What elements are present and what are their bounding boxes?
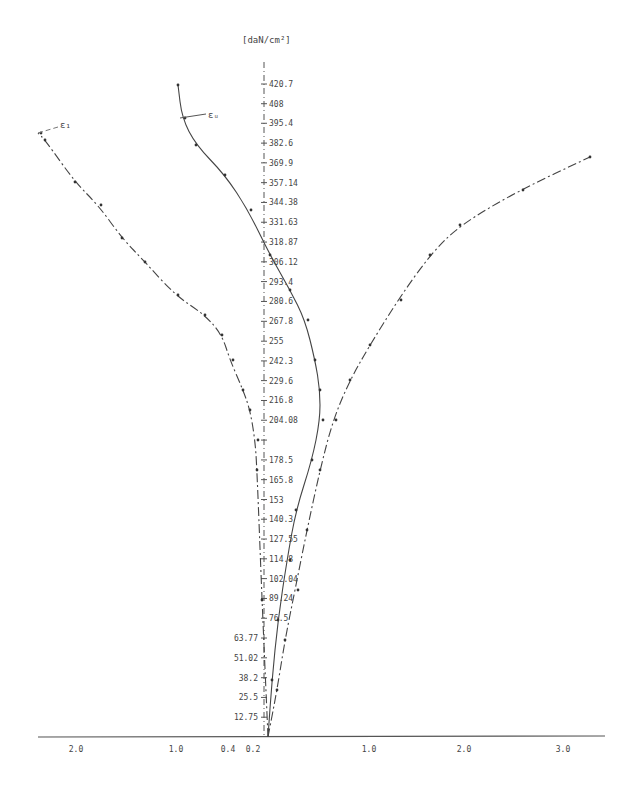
data-point xyxy=(522,189,525,192)
y-tick-label: 178.5 xyxy=(269,456,293,465)
y-axis-unit-label: [daN/cm²] xyxy=(242,35,291,45)
data-point xyxy=(322,419,325,422)
y-tick-label: 204.08 xyxy=(269,416,298,425)
y-tick-label: 255 xyxy=(269,337,284,346)
data-point xyxy=(44,139,47,142)
chart: [daN/cm²] 12.7525.538.251.0263.7776.589.… xyxy=(0,0,632,797)
x-tick-label: 3.0 xyxy=(556,745,571,754)
data-point xyxy=(224,174,227,177)
y-tick-label: 229.6 xyxy=(269,377,293,386)
x-tick-label: 2.0 xyxy=(69,745,84,754)
y-tick-label: 25.5 xyxy=(239,693,258,702)
y-tick-label: 382.6 xyxy=(269,139,293,148)
y-tick-label: 280.6 xyxy=(269,297,293,306)
series-line xyxy=(38,133,268,737)
data-point xyxy=(277,619,280,622)
x-ticks: 2.01.00.40.21.02.03.0 xyxy=(69,745,571,754)
data-point xyxy=(311,459,314,462)
data-point xyxy=(400,299,403,302)
data-point xyxy=(271,679,274,682)
data-point xyxy=(276,689,279,692)
data-point xyxy=(297,589,300,592)
y-tick-label: 38.2 xyxy=(239,674,258,683)
data-point xyxy=(257,439,260,442)
data-point xyxy=(100,204,103,207)
data-point xyxy=(269,254,272,257)
curve-mid-label: εᵤ xyxy=(208,110,219,120)
data-point xyxy=(369,344,372,347)
data-point xyxy=(232,359,235,362)
data-point xyxy=(221,334,224,337)
curve-left-label-leader xyxy=(38,127,58,133)
data-point xyxy=(459,224,462,227)
curve-left-label: ε₁ xyxy=(60,120,71,130)
y-tick-label: 140.3 xyxy=(269,515,293,524)
y-tick-label: 63.77 xyxy=(234,634,258,643)
y-tick-label: 408 xyxy=(269,100,284,109)
data-point xyxy=(307,319,310,322)
y-tick-label: 216.8 xyxy=(269,396,293,405)
x-tick-label: 1.0 xyxy=(169,745,184,754)
series-line xyxy=(268,157,590,737)
data-point xyxy=(319,389,322,392)
curve-mid-label-leader xyxy=(180,114,206,118)
data-point xyxy=(204,314,207,317)
data-point xyxy=(74,181,77,184)
data-point xyxy=(349,379,352,382)
x-tick-label: 1.0 xyxy=(362,745,377,754)
y-tick-label: 331.63 xyxy=(269,218,298,227)
data-point xyxy=(306,529,309,532)
data-point xyxy=(289,289,292,292)
data-point xyxy=(256,469,259,472)
y-tick-label: 127.55 xyxy=(269,535,298,544)
data-point xyxy=(242,389,245,392)
x-tick-label: 0.2 xyxy=(246,745,261,754)
data-point xyxy=(195,144,198,147)
data-point xyxy=(177,84,180,87)
x-tick-label: 0.4 xyxy=(221,745,236,754)
y-tick-label: 318.87 xyxy=(269,238,298,247)
data-point xyxy=(250,209,253,212)
x-axis xyxy=(38,736,605,737)
data-point xyxy=(335,419,338,422)
y-tick-label: 12.75 xyxy=(234,713,258,722)
y-tick-label: 293.4 xyxy=(269,278,293,287)
y-tick-label: 165.8 xyxy=(269,476,293,485)
y-tick-label: 242.3 xyxy=(269,357,293,366)
data-point xyxy=(319,469,322,472)
data-point xyxy=(284,639,287,642)
y-tick-label: 420.7 xyxy=(269,80,293,89)
data-point xyxy=(249,409,252,412)
data-point xyxy=(177,294,180,297)
x-tick-label: 2.0 xyxy=(457,745,472,754)
y-ticks: 12.7525.538.251.0263.7776.589.24102.0411… xyxy=(234,80,298,722)
data-point xyxy=(121,237,124,240)
data-point xyxy=(295,509,298,512)
y-tick-label: 267.8 xyxy=(269,317,293,326)
data-point xyxy=(261,599,264,602)
data-point xyxy=(144,261,147,264)
data-point xyxy=(314,359,317,362)
y-tick-label: 51.02 xyxy=(234,654,258,663)
data-point xyxy=(289,559,292,562)
y-tick-label: 344.38 xyxy=(269,198,298,207)
data-point xyxy=(589,156,592,159)
y-tick-label: 153 xyxy=(269,496,284,505)
y-tick-label: 395.4 xyxy=(269,119,293,128)
y-tick-label: 306.12 xyxy=(269,258,298,267)
y-tick-label: 369.9 xyxy=(269,159,293,168)
y-tick-label: 357.14 xyxy=(269,179,298,188)
data-point xyxy=(429,254,432,257)
series-group xyxy=(38,84,591,737)
